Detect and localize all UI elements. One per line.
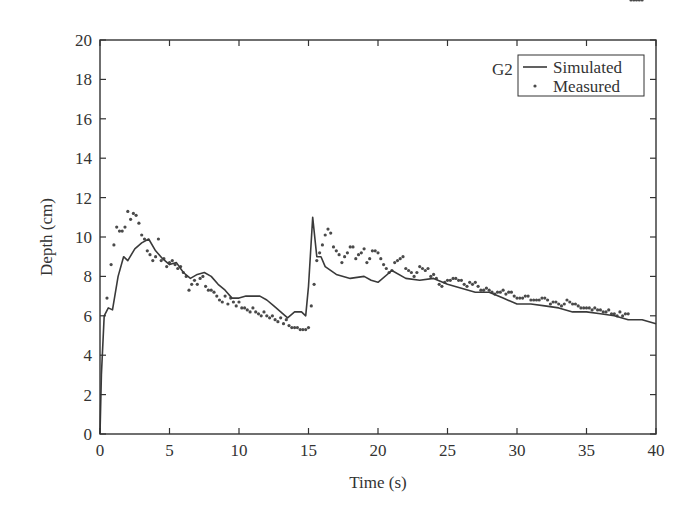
measured-point (315, 259, 318, 262)
axis-ticks (100, 40, 656, 434)
measured-point (385, 267, 388, 270)
measured-point (591, 308, 594, 311)
measured-point (265, 314, 268, 317)
measured-point (513, 295, 516, 298)
measured-point (151, 259, 154, 262)
measured-point (224, 295, 227, 298)
measured-point (382, 263, 385, 266)
measured-point (407, 269, 410, 272)
y-tick-labels: 02468101214161820 (75, 31, 93, 444)
legend: Simulated Measured (518, 55, 644, 96)
measured-point (593, 306, 596, 309)
measured-point (401, 255, 404, 258)
measured-point (221, 300, 224, 303)
measured-point (232, 300, 235, 303)
measured-point (335, 249, 338, 252)
measured-point (499, 291, 502, 294)
measured-point (429, 275, 432, 278)
measured-point (243, 306, 246, 309)
measured-point (146, 249, 149, 252)
measured-point (187, 289, 190, 292)
measured-point (438, 283, 441, 286)
measured-point (148, 253, 151, 256)
measured-point (321, 243, 324, 246)
y-tick-label: 12 (75, 189, 92, 208)
measured-point (527, 295, 530, 298)
measured-point (463, 283, 466, 286)
y-tick-label: 8 (84, 267, 93, 286)
measured-point (629, 0, 632, 2)
measured-point (115, 226, 118, 229)
measured-point (565, 298, 568, 301)
measured-point (460, 279, 463, 282)
measured-point (285, 318, 288, 321)
x-tick-label: 30 (509, 441, 526, 460)
measured-point (482, 289, 485, 292)
measured-point (568, 300, 571, 303)
measured-point (276, 320, 279, 323)
measured-point (201, 275, 204, 278)
measured-point (524, 295, 527, 298)
x-tick-label: 0 (96, 441, 105, 460)
measured-point (426, 267, 429, 270)
x-tick-label: 35 (578, 441, 595, 460)
measured-point (249, 310, 252, 313)
measured-point (518, 297, 521, 300)
measured-point (215, 295, 218, 298)
measured-point (204, 285, 207, 288)
measured-point (210, 289, 213, 292)
measured-point (199, 277, 202, 280)
measured-point (338, 253, 341, 256)
measured-point (404, 267, 407, 270)
measured-point (413, 275, 416, 278)
measured-point (618, 310, 621, 313)
measured-point (121, 230, 124, 233)
measured-point (549, 302, 552, 305)
measured-point (424, 269, 427, 272)
measured-point (332, 245, 335, 248)
measured-point (449, 279, 452, 282)
measured-point (546, 298, 549, 301)
measured-point (165, 265, 168, 268)
measured-point (477, 285, 480, 288)
measured-point (310, 304, 313, 307)
measured-point (471, 283, 474, 286)
measured-point (474, 281, 477, 284)
measured-point (157, 237, 160, 240)
measured-point (262, 310, 265, 313)
measured-point (351, 245, 354, 248)
measured-point (415, 271, 418, 274)
measured-point (515, 297, 518, 300)
measured-point (410, 271, 413, 274)
measured-point (588, 306, 591, 309)
measured-point (318, 251, 321, 254)
measured-point (621, 314, 624, 317)
measured-point (641, 0, 644, 2)
measured-point (376, 251, 379, 254)
measured-point (260, 314, 263, 317)
measured-point (579, 306, 582, 309)
measured-point (585, 306, 588, 309)
measured-point (343, 255, 346, 258)
measured-point (137, 222, 140, 225)
axes-frame (100, 40, 656, 434)
measured-point (627, 312, 630, 315)
measured-point (635, 0, 638, 2)
measured-point (123, 226, 126, 229)
depth-time-chart: 0510152025303540 02468101214161820 Time … (0, 0, 695, 520)
x-tick-label: 10 (231, 441, 248, 460)
measured-point (346, 251, 349, 254)
measured-point (529, 298, 532, 301)
y-tick-label: 18 (75, 70, 92, 89)
measured-point (360, 251, 363, 254)
measured-point (554, 300, 557, 303)
measured-point (557, 302, 560, 305)
x-axis-label: Time (s) (349, 473, 406, 492)
measured-point (282, 322, 285, 325)
measured-point (190, 283, 193, 286)
measured-point (340, 261, 343, 264)
measured-point (374, 249, 377, 252)
measured-point (193, 279, 196, 282)
measured-point (607, 308, 610, 311)
x-tick-labels: 0510152025303540 (96, 441, 665, 460)
